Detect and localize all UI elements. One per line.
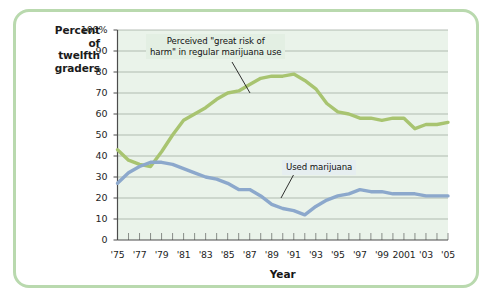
x-tick-label: '95	[331, 249, 345, 260]
callout-used-marijuana: Used marijuana	[282, 160, 356, 175]
x-tick-label: '87	[243, 249, 257, 260]
x-tick-label: '81	[177, 249, 191, 260]
x-tick-label: '79	[155, 249, 169, 260]
callout-perceived-risk-line-1: Perceived "great risk of	[150, 36, 281, 47]
x-tick-label: 2001	[392, 249, 415, 260]
x-tick-label: '83	[199, 249, 213, 260]
x-tick-label: '77	[133, 249, 147, 260]
x-tick-label: '93	[309, 249, 323, 260]
x-tick-label: '97	[353, 249, 367, 260]
callout-perceived-risk: Perceived "great risk of harm" in regula…	[146, 34, 285, 59]
x-tick-label: '75	[111, 249, 125, 260]
x-tick-label: '91	[287, 249, 301, 260]
x-tick-label: '99	[375, 249, 389, 260]
x-axis-title: Year	[270, 268, 296, 280]
x-tick-label: '85	[221, 249, 235, 260]
x-tick-label: '05	[441, 249, 455, 260]
callout-perceived-risk-line-2: harm" in regular marijuana use	[150, 47, 281, 58]
x-tick-label: '89	[265, 249, 279, 260]
x-tick-label: '03	[419, 249, 433, 260]
chart-figure: Percent of twelfth graders 100%908070605…	[0, 0, 500, 304]
